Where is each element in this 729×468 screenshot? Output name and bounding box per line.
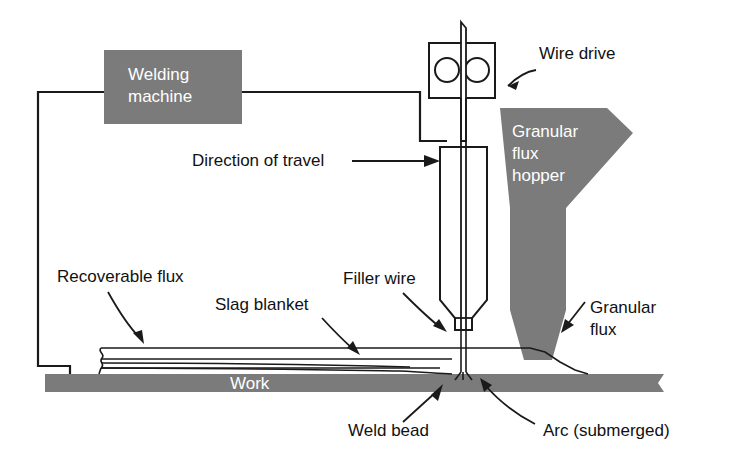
hopper-label-line2: flux bbox=[512, 144, 539, 163]
welding-machine-label-line2: machine bbox=[128, 87, 192, 106]
granular-flux-label-line2: flux bbox=[590, 320, 617, 339]
hopper-label-line1: Granular bbox=[512, 122, 578, 141]
callout-filler-wire: Filler wire bbox=[343, 269, 447, 332]
hopper-label-line3: hopper bbox=[512, 166, 565, 185]
callout-direction-of-travel: Direction of travel bbox=[192, 151, 440, 170]
welding-process-diagram: Welding machine Granular flux hopper Wor… bbox=[0, 0, 729, 468]
recoverable-flux-label: Recoverable flux bbox=[57, 267, 184, 286]
welding-machine-block: Welding machine bbox=[104, 50, 242, 124]
wire-drive-label: Wire drive bbox=[539, 44, 616, 63]
weld-bead-label: Weld bead bbox=[348, 421, 429, 440]
callout-recoverable-flux: Recoverable flux bbox=[57, 267, 184, 344]
work-label: Work bbox=[230, 374, 270, 393]
arc-submerged-label: Arc (submerged) bbox=[543, 421, 670, 440]
granular-flux-label-line1: Granular bbox=[590, 298, 656, 317]
flux-bed-layers bbox=[99, 348, 588, 374]
slag-blanket-label: Slag blanket bbox=[215, 295, 309, 314]
callout-weld-bead: Weld bead bbox=[348, 384, 443, 440]
direction-of-travel-label: Direction of travel bbox=[192, 151, 324, 170]
wire-drive-roller-left bbox=[435, 58, 459, 82]
callout-wire-drive: Wire drive bbox=[508, 44, 616, 90]
diagram-canvas: Welding machine Granular flux hopper Wor… bbox=[0, 0, 729, 468]
ground-cable bbox=[38, 92, 104, 380]
wire-drive-roller-right bbox=[465, 58, 489, 82]
filler-wire-label: Filler wire bbox=[343, 269, 416, 288]
callout-granular-flux: Granular flux bbox=[561, 298, 656, 339]
callout-slag-blanket: Slag blanket bbox=[215, 295, 360, 355]
welding-torch-body bbox=[440, 147, 487, 330]
power-cable bbox=[242, 92, 447, 141]
work-block: Work bbox=[45, 374, 664, 393]
welding-machine-label-line1: Welding bbox=[128, 65, 189, 84]
